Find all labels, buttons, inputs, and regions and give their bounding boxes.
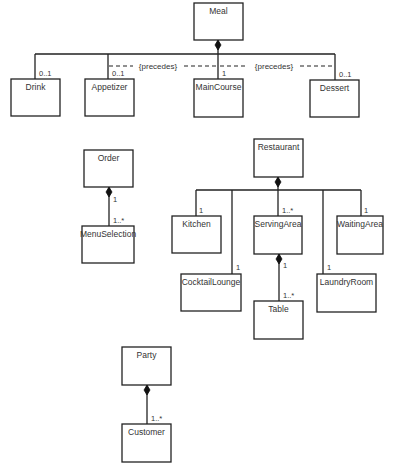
- class-name: Restaurant: [258, 142, 300, 152]
- multiplicity-label: 1: [327, 263, 331, 272]
- multiplicity-label: 0..1: [39, 69, 52, 78]
- multiplicity-label: 1..*: [282, 206, 293, 215]
- composition-diamond: [106, 187, 112, 197]
- uml-class-diagram: {precedes} {precedes} Meal Drink 0..1 Ap…: [0, 0, 397, 470]
- meal-composition: {precedes} {precedes} Meal Drink 0..1 Ap…: [11, 3, 359, 117]
- class-restaurant[interactable]: Restaurant: [254, 139, 303, 177]
- class-name: Customer: [128, 427, 165, 437]
- class-name: WaitingArea: [337, 219, 383, 229]
- class-order[interactable]: Order: [84, 150, 133, 187]
- multiplicity-label: 1: [222, 69, 226, 78]
- class-name: ServingArea: [255, 219, 302, 229]
- class-party[interactable]: Party: [122, 347, 171, 385]
- composition-diamond: [144, 385, 150, 395]
- class-name: CocktailLounge: [182, 277, 241, 287]
- multiplicity-label: 1..*: [113, 216, 124, 225]
- multiplicity-label: 0..1: [339, 70, 352, 79]
- class-name: MenuSelection: [80, 229, 137, 239]
- class-main-course[interactable]: MainCourse: [194, 79, 243, 117]
- class-customer[interactable]: Customer: [122, 424, 171, 462]
- class-cocktail-lounge[interactable]: CocktailLounge: [181, 274, 241, 311]
- multiplicity-label: 0..1: [112, 69, 125, 78]
- class-name: Kitchen: [182, 219, 211, 229]
- multiplicity-label: 1: [364, 206, 368, 215]
- multiplicity-label: 1..*: [151, 414, 162, 423]
- multiplicity-label: 1: [283, 261, 287, 270]
- class-waiting-area[interactable]: WaitingArea: [337, 216, 383, 254]
- class-meal[interactable]: Meal: [194, 3, 243, 40]
- order-composition: Order 1 1..* MenuSelection: [80, 150, 137, 263]
- composition-diamond: [276, 254, 282, 264]
- class-name: LaundryRoom: [320, 277, 373, 287]
- composition-diamond: [275, 177, 281, 187]
- multiplicity-label: 1: [113, 195, 117, 204]
- class-dessert[interactable]: Dessert: [310, 80, 359, 117]
- class-name: Order: [98, 153, 120, 163]
- multiplicity-label: 1..*: [283, 291, 294, 300]
- multiplicity-label: 1: [236, 263, 240, 272]
- class-serving-area[interactable]: ServingArea: [254, 216, 302, 254]
- class-appetizer[interactable]: Appetizer: [85, 79, 134, 116]
- multiplicity-label: 1: [199, 206, 203, 215]
- class-name: Table: [268, 304, 289, 314]
- precedes-constraint-1: {precedes}: [139, 62, 178, 71]
- class-drink[interactable]: Drink: [11, 79, 60, 116]
- class-name: Party: [137, 350, 158, 360]
- class-menu-selection[interactable]: MenuSelection: [80, 226, 137, 263]
- restaurant-composition: Restaurant Kitchen 1 ServingArea 1..* Wa…: [172, 139, 383, 339]
- party-composition: Party 1..* Customer: [122, 347, 171, 462]
- composition-diamond: [215, 40, 221, 50]
- class-table[interactable]: Table: [254, 301, 303, 339]
- class-laundry-room[interactable]: LaundryRoom: [317, 274, 376, 312]
- class-kitchen[interactable]: Kitchen: [172, 216, 221, 253]
- class-name: Meal: [209, 6, 228, 16]
- precedes-constraint-2: {precedes}: [255, 62, 294, 71]
- class-name: Drink: [26, 82, 47, 92]
- meal-tree-connector: [35, 40, 335, 80]
- class-name: Dessert: [320, 83, 350, 93]
- class-name: Appetizer: [92, 82, 128, 92]
- class-name: MainCourse: [196, 82, 242, 92]
